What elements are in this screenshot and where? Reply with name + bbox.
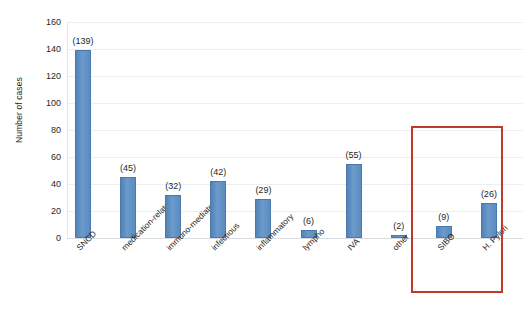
bar-sncd[interactable] [75, 50, 91, 238]
bar-value-label: (139) [61, 37, 105, 46]
x-axis-category-label: IVA [346, 237, 361, 252]
bar-value-label: (29) [241, 186, 285, 195]
highlight-rectangle-annotation [411, 126, 503, 293]
bar-value-label: (42) [196, 168, 240, 177]
bar-value-label: (6) [287, 217, 331, 226]
bar-value-label: (55) [332, 151, 376, 160]
bar-value-label: (45) [106, 164, 150, 173]
bar-iva[interactable] [346, 164, 362, 238]
bar-chart: Number of cases 020406080100120140160 (1… [0, 0, 526, 319]
bar-medication-related[interactable] [120, 177, 136, 238]
bar-value-label: (32) [151, 182, 195, 191]
